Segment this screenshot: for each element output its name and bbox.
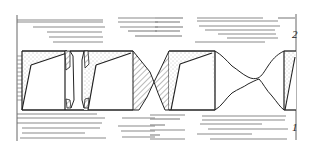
neck-joint-wavy (215, 51, 284, 110)
block-2 (70, 51, 133, 110)
weld-cross-section-diagram (0, 0, 310, 153)
neck-joint-hatched (133, 51, 169, 110)
block-4 (284, 51, 296, 110)
block-3 (169, 51, 215, 110)
left-edge-hatching (17, 56, 22, 100)
bottom-plate-layers (17, 114, 288, 139)
top-plate-layers (17, 18, 295, 42)
plate-label-2: 2 (292, 29, 298, 40)
plate-label-1: 1 (292, 122, 298, 133)
block-1 (22, 51, 88, 110)
